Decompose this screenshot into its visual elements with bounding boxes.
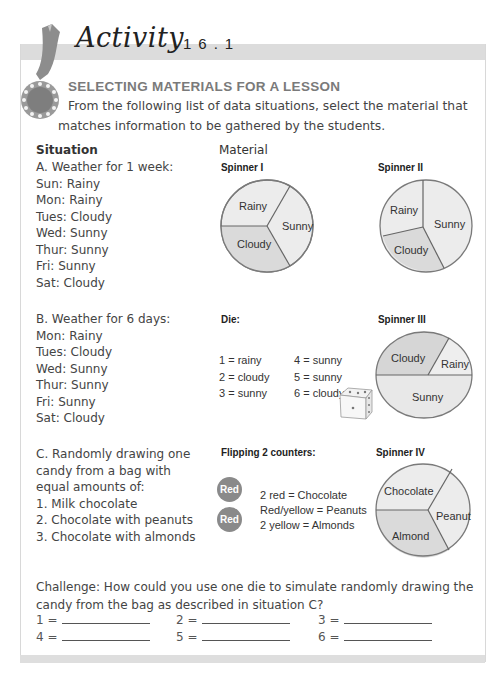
intro-text: From the following list of data situatio… xyxy=(58,96,478,136)
activity-number: 16.1 xyxy=(183,35,240,52)
slice-label: Almond xyxy=(392,530,429,542)
answer-label: 5 = xyxy=(176,630,198,644)
die-map-item: 3 = sunny xyxy=(219,385,294,402)
answer-label: 2 = xyxy=(176,613,198,627)
counter-chip: Red xyxy=(217,507,242,532)
spinner-3-label: Spinner III xyxy=(378,313,426,325)
list-item: Mon: Rainy xyxy=(36,328,211,345)
slice-label: Sunny xyxy=(412,391,444,403)
list-item: 1. Milk chocolate xyxy=(36,496,206,513)
material-header: Material xyxy=(219,143,268,157)
slice-label: Cloudy xyxy=(391,352,426,364)
situation-c-title: C. Randomly drawing one candy from a bag… xyxy=(36,446,206,496)
list-item: Thur: Sunny xyxy=(36,377,211,394)
die-map-item: 1 = rainy xyxy=(219,352,294,369)
answer-blank-5[interactable] xyxy=(202,629,290,641)
counter-rules: 2 red = Chocolate Red/yellow = Peanuts 2… xyxy=(260,488,367,533)
spinner-4: Chocolate Peanut Almond xyxy=(374,462,472,558)
list-item: Tues: Cloudy xyxy=(36,344,211,361)
slice-label: Peanut xyxy=(436,510,471,522)
answer-label: 3 = xyxy=(318,613,340,627)
list-item: Fri: Sunny xyxy=(36,394,211,411)
list-item: Sun: Rainy xyxy=(36,176,211,193)
situation-a-title: A. Weather for 1 week: xyxy=(36,159,211,176)
die-map-item: 2 = cloudy xyxy=(219,369,294,386)
footer-band xyxy=(20,655,485,663)
counter-rule: 2 red = Chocolate xyxy=(260,488,367,503)
situation-a: A. Weather for 1 week: Sun: Rainy Mon: R… xyxy=(36,159,211,291)
counter-chip: Red xyxy=(217,477,242,502)
spinner-3: Cloudy Rainy Sunny xyxy=(374,330,474,420)
spinner-1: Rainy Sunny Cloudy xyxy=(219,178,315,274)
list-item: Wed: Sunny xyxy=(36,361,211,378)
slice-label: Rainy xyxy=(239,200,268,212)
challenge-text: Challenge: How could you use one die to … xyxy=(36,578,476,614)
situation-b: B. Weather for 6 days: Mon: Rainy Tues: … xyxy=(36,311,211,427)
die-map-item: 5 = sunny xyxy=(294,369,369,386)
list-item: 2. Chocolate with peanuts xyxy=(36,512,206,529)
situation-c: C. Randomly drawing one candy from a bag… xyxy=(36,446,206,545)
situation-b-title: B. Weather for 6 days: xyxy=(36,311,211,328)
list-item: 3. Chocolate with almonds xyxy=(36,529,206,546)
list-item: Tues: Cloudy xyxy=(36,209,211,226)
spinner-4-label: Spinner IV xyxy=(376,446,425,458)
answer-blank-3[interactable] xyxy=(344,612,432,624)
slice-label: Rainy xyxy=(441,358,470,370)
page-title: SELECTING MATERIALS FOR A LESSON xyxy=(68,79,340,94)
answer-blank-2[interactable] xyxy=(202,612,290,624)
slice-label: Rainy xyxy=(390,204,419,216)
spinner-2: Rainy Sunny Cloudy xyxy=(378,178,474,274)
slice-label: Sunny xyxy=(434,218,466,230)
situation-header: Situation xyxy=(36,143,98,157)
list-item: Thur: Sunny xyxy=(36,242,211,259)
activity-word: Activity xyxy=(76,22,184,53)
list-item: Wed: Sunny xyxy=(36,225,211,242)
answer-blank-4[interactable] xyxy=(62,629,150,641)
spinner-1-label: Spinner I xyxy=(221,161,263,173)
answer-label: 4 = xyxy=(36,630,58,644)
answer-blank-1[interactable] xyxy=(62,612,150,624)
answer-blank-6[interactable] xyxy=(344,629,432,641)
slice-label: Sunny xyxy=(282,220,314,232)
slice-label: Cloudy xyxy=(394,244,429,256)
slice-label: Cloudy xyxy=(237,238,272,250)
answer-label: 1 = xyxy=(36,613,58,627)
spinner-2-label: Spinner II xyxy=(378,161,423,173)
list-item: Sat: Cloudy xyxy=(36,275,211,292)
die-map-item: 4 = sunny xyxy=(294,352,369,369)
counter-rule: 2 yellow = Almonds xyxy=(260,518,367,533)
die-icon xyxy=(338,386,374,420)
answer-label: 6 = xyxy=(318,630,340,644)
counters-label: Flipping 2 counters: xyxy=(221,446,316,458)
die-label: Die: xyxy=(221,313,240,325)
counter-rule: Red/yellow = Peanuts xyxy=(260,503,367,518)
list-item: Sat: Cloudy xyxy=(36,410,211,427)
slice-label: Chocolate xyxy=(384,485,434,497)
list-item: Mon: Rainy xyxy=(36,192,211,209)
list-item: Fri: Sunny xyxy=(36,258,211,275)
